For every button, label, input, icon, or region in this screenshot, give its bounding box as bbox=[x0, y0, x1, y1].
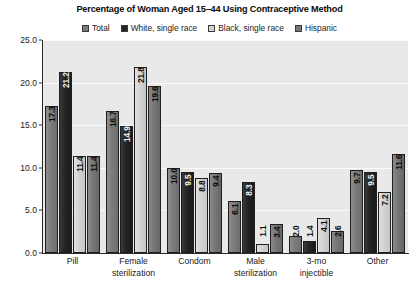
legend-item-2[interactable]: Black, single race bbox=[208, 24, 284, 32]
legend-item-1[interactable]: White, single race bbox=[121, 24, 198, 32]
bar[interactable]: 7.2 bbox=[378, 192, 391, 253]
legend-label: Hispanic bbox=[305, 24, 337, 32]
bar[interactable]: 2.6 bbox=[331, 231, 344, 253]
bar-value-label: 19.6 bbox=[150, 86, 158, 101]
chart-legend: TotalWhite, single raceBlack, single rac… bbox=[0, 24, 419, 32]
x-axis-label: Malesterilization bbox=[225, 256, 286, 279]
bar-value-label: 2.6 bbox=[333, 226, 341, 237]
bar-value-label: 10.0 bbox=[169, 168, 177, 183]
y-axis-line bbox=[42, 40, 43, 254]
bar[interactable]: 8.3 bbox=[242, 182, 255, 253]
bar-value-label: 1.1 bbox=[258, 226, 266, 237]
bar-group: 16.714.921.819.6 bbox=[103, 40, 164, 253]
bar[interactable]: 21.2 bbox=[59, 72, 72, 253]
legend-item-3[interactable]: Hispanic bbox=[295, 24, 337, 32]
bar-groups: 17.321.211.411.416.714.921.819.610.09.58… bbox=[42, 40, 408, 253]
x-axis-label: 3-moinjectible bbox=[286, 256, 347, 279]
x-axis-label: Femalesterilization bbox=[103, 256, 164, 279]
bar-value-label: 9.7 bbox=[352, 173, 360, 184]
bar-value-label: 11.4 bbox=[89, 157, 97, 172]
bar[interactable]: 6.1 bbox=[228, 201, 241, 253]
bar-value-label: 9.5 bbox=[366, 175, 374, 186]
bar-value-label: 3.4 bbox=[272, 227, 280, 238]
bar-group: 9.79.57.211.6 bbox=[347, 40, 408, 253]
x-axis-label-line1: Female bbox=[119, 256, 148, 266]
bar[interactable]: 14.9 bbox=[120, 126, 133, 253]
x-axis-label: Other bbox=[347, 256, 408, 268]
bar[interactable]: 3.4 bbox=[270, 224, 283, 253]
bar-value-label: 4.1 bbox=[319, 221, 327, 232]
bar-value-label: 21.2 bbox=[61, 73, 69, 88]
bar[interactable]: 1.4 bbox=[303, 241, 316, 253]
bar-group: 17.321.211.411.4 bbox=[42, 40, 103, 253]
bar-value-label: 1.4 bbox=[305, 226, 313, 237]
bar-value-label: 9.4 bbox=[211, 176, 219, 187]
bar-value-label: 16.7 bbox=[108, 111, 116, 126]
x-axis-line bbox=[42, 253, 409, 254]
bar[interactable]: 11.6 bbox=[392, 154, 405, 253]
legend-swatch-icon bbox=[208, 25, 215, 32]
bar-value-label: 2.0 bbox=[291, 226, 299, 237]
legend-label: White, single race bbox=[131, 24, 198, 32]
bar[interactable]: 11.4 bbox=[87, 156, 100, 253]
x-axis-label-line1: 3-mo bbox=[307, 256, 327, 266]
bar[interactable]: 11.4 bbox=[73, 156, 86, 253]
legend-label: Black, single race bbox=[218, 24, 284, 32]
bar[interactable]: 9.5 bbox=[181, 172, 194, 253]
bar[interactable]: 10.0 bbox=[167, 168, 180, 253]
legend-label: Total bbox=[92, 24, 110, 32]
x-axis-label-line1: Condom bbox=[178, 256, 210, 266]
x-axis-label: Condom bbox=[164, 256, 225, 268]
x-axis-label-line1: Male bbox=[246, 256, 265, 266]
bar[interactable]: 9.5 bbox=[364, 172, 377, 253]
bar-value-label: 21.8 bbox=[136, 68, 144, 83]
bar-group: 10.09.58.89.4 bbox=[164, 40, 225, 253]
bar-value-label: 8.3 bbox=[244, 185, 252, 196]
bar[interactable]: 8.8 bbox=[195, 178, 208, 253]
bar[interactable]: 17.3 bbox=[45, 106, 58, 253]
bar-group: 6.18.31.13.4 bbox=[225, 40, 286, 253]
bar[interactable]: 2.0 bbox=[289, 236, 302, 253]
x-axis-label: Pill bbox=[42, 256, 103, 268]
chart-title: Percentage of Woman Aged 15–44 Using Con… bbox=[0, 4, 419, 14]
bar[interactable]: 9.7 bbox=[350, 170, 363, 253]
bar[interactable]: 1.1 bbox=[256, 244, 269, 253]
bar-value-label: 8.8 bbox=[197, 181, 205, 192]
bar[interactable]: 21.8 bbox=[134, 67, 147, 253]
x-axis-label-line2: injectible bbox=[286, 268, 347, 280]
bar-value-label: 6.1 bbox=[230, 204, 238, 215]
bar[interactable]: 19.6 bbox=[148, 86, 161, 253]
x-axis-label-line1: Pill bbox=[67, 256, 78, 266]
bar-value-label: 9.5 bbox=[183, 175, 191, 186]
legend-swatch-icon bbox=[295, 25, 302, 32]
x-axis-label-line2: sterilization bbox=[225, 268, 286, 280]
legend-swatch-icon bbox=[82, 25, 89, 32]
plot-area: 0.05.010.015.020.025.0 17.321.211.411.41… bbox=[42, 40, 408, 253]
bar-value-label: 17.3 bbox=[47, 106, 55, 121]
x-axis-label-line2: sterilization bbox=[103, 268, 164, 280]
bar-value-label: 7.2 bbox=[380, 194, 388, 205]
legend-swatch-icon bbox=[121, 25, 128, 32]
bar-value-label: 14.9 bbox=[122, 126, 130, 141]
bar-value-label: 11.4 bbox=[75, 157, 83, 172]
x-axis-labels: PillFemalesterilizationCondomMalesterili… bbox=[42, 256, 409, 296]
chart-container: Percentage of Woman Aged 15–44 Using Con… bbox=[0, 0, 419, 298]
bar[interactable]: 4.1 bbox=[317, 218, 330, 253]
bar-value-label: 11.6 bbox=[394, 155, 402, 170]
bar-group: 2.01.44.12.6 bbox=[286, 40, 347, 253]
legend-item-0[interactable]: Total bbox=[82, 24, 110, 32]
bar[interactable]: 16.7 bbox=[106, 111, 119, 253]
bar[interactable]: 9.4 bbox=[209, 173, 222, 253]
x-axis-label-line1: Other bbox=[367, 256, 389, 266]
